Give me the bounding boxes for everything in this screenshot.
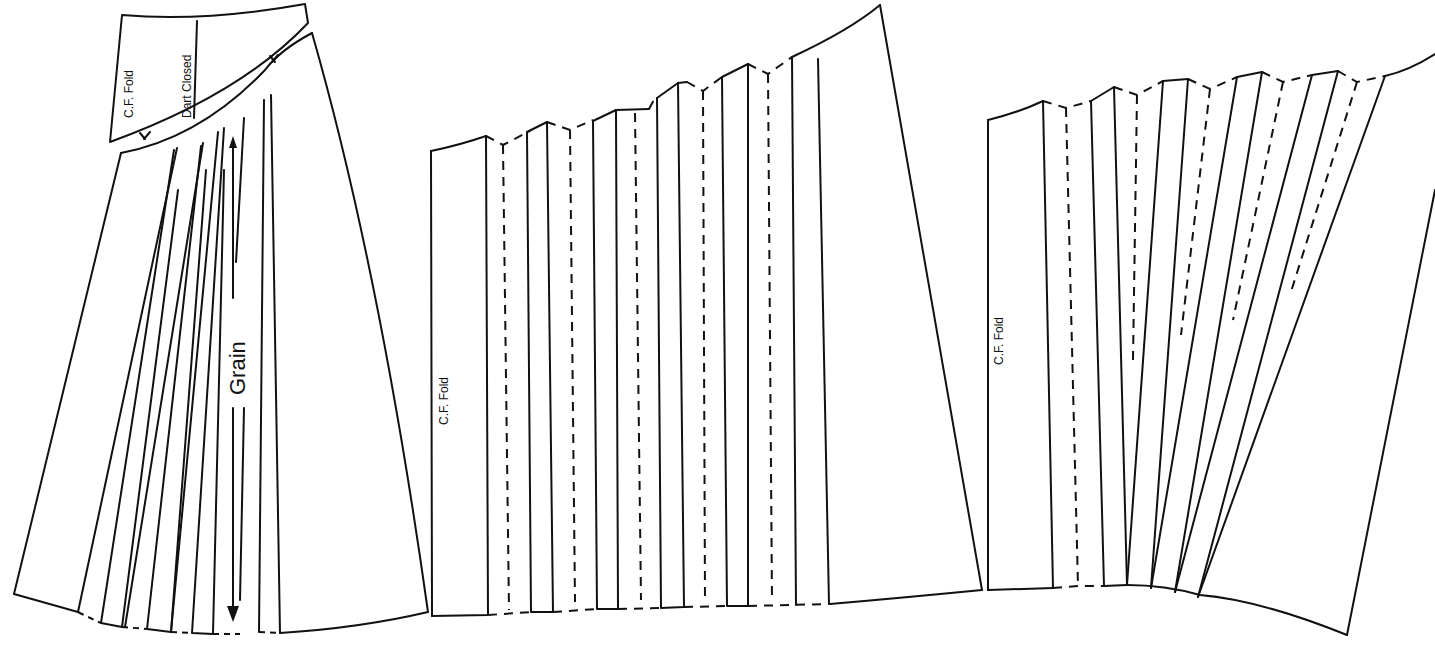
piece-1-yoke <box>110 4 308 142</box>
piece-1-skirt <box>14 33 428 634</box>
piece-2-skirt <box>431 5 982 616</box>
pattern-diagram: C.F. Fold Dart Closed Grain <box>0 0 1435 645</box>
grain-label: Grain <box>225 341 250 395</box>
cf-fold-label-2: C.F. Fold <box>437 377 451 425</box>
dart-closed-label: Dart Closed <box>180 55 194 118</box>
piece-3-skirt <box>988 54 1435 635</box>
cf-fold-label-1: C.F. Fold <box>122 70 136 118</box>
cf-fold-label-3: C.F. Fold <box>992 317 1006 365</box>
